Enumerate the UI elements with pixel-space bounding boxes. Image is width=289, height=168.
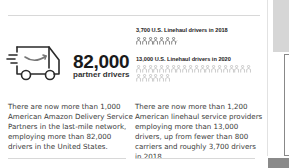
person-icon — [159, 65, 164, 73]
delivery-truck-icon — [5, 36, 65, 86]
bottom-divider-right — [135, 158, 255, 159]
partial-person-icon — [176, 37, 179, 45]
person-icon — [240, 65, 245, 73]
bottom-divider-left — [8, 158, 126, 159]
person-icon — [176, 65, 181, 73]
person-icon — [217, 65, 222, 73]
person-icon — [148, 37, 153, 45]
last-mile-description: There are now more than 1,000 American A… — [8, 102, 133, 152]
side-box — [284, 54, 289, 156]
person-icon — [165, 37, 170, 45]
person-icon — [165, 74, 170, 82]
person-icon — [153, 74, 158, 82]
person-icon — [153, 65, 158, 73]
person-icon — [142, 37, 147, 45]
linehaul-2020-icons-row2 — [136, 74, 170, 82]
person-icon — [246, 65, 251, 73]
linehaul-2018-label: 3,700 U.S. Linehaul drivers in 2018 — [136, 27, 228, 33]
person-icon — [136, 74, 141, 82]
person-icon — [148, 65, 153, 73]
person-icon — [171, 37, 176, 45]
person-icon — [159, 74, 164, 82]
linehaul-description: There are now more than 1,200 American l… — [135, 102, 263, 162]
person-icon — [223, 65, 228, 73]
person-icon — [194, 65, 199, 73]
person-icon — [142, 74, 147, 82]
person-icon — [171, 65, 176, 73]
side-image-placeholder — [273, 0, 289, 52]
person-icon — [148, 74, 153, 82]
person-icon — [165, 65, 170, 73]
person-icon — [205, 65, 210, 73]
person-icon — [188, 65, 193, 73]
person-icon — [182, 65, 187, 73]
column-divider — [267, 0, 268, 156]
person-icon — [136, 37, 141, 45]
top-divider — [8, 15, 260, 16]
person-icon — [136, 65, 141, 73]
linehaul-2020-label: 13,000 U.S. Linehaul drivers in 2020 — [136, 56, 231, 62]
linehaul-2020-icons-row1 — [136, 65, 251, 73]
person-icon — [234, 65, 239, 73]
person-icon — [153, 37, 158, 45]
person-icon — [211, 65, 216, 73]
side-bar — [268, 158, 289, 168]
linehaul-2018-icons — [136, 37, 179, 45]
person-icon — [200, 65, 205, 73]
person-icon — [229, 65, 234, 73]
person-icon — [159, 37, 164, 45]
person-icon — [142, 65, 147, 73]
partner-drivers-label: partner drivers — [73, 70, 129, 79]
